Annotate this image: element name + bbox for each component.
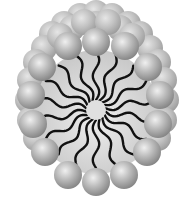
head-group: [134, 53, 162, 81]
head-group: [82, 28, 110, 56]
head-group: [28, 53, 56, 81]
head-group: [144, 110, 172, 138]
micelle-core: [86, 100, 106, 120]
head-group: [133, 138, 161, 166]
head-group: [17, 81, 45, 109]
head-group: [110, 161, 138, 189]
head-group: [31, 138, 59, 166]
micelle-diagram: [0, 0, 187, 202]
head-group: [54, 161, 82, 189]
head-group: [146, 81, 174, 109]
head-group: [54, 32, 82, 60]
head-group: [19, 110, 47, 138]
head-group: [111, 32, 139, 60]
head-group: [82, 168, 110, 196]
